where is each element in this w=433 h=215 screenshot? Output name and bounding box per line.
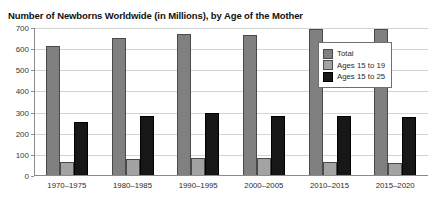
y-axis-tick-label: 200 (16, 129, 29, 138)
y-axis-tick-label: 500 (16, 66, 29, 75)
y-axis-tick-label: 400 (16, 87, 29, 96)
legend-swatch-icon (323, 72, 333, 82)
y-tick-mark (31, 176, 34, 177)
x-axis-tick-label: 1980–1985 (113, 181, 152, 190)
legend-swatch-icon (323, 49, 333, 59)
y-axis-tick-label: 100 (16, 150, 29, 159)
chart-container: Number of Newborns Worldwide (in Million… (0, 0, 433, 215)
y-axis-tick-label: 300 (16, 108, 29, 117)
legend-item[interactable]: Total (323, 49, 385, 59)
legend-swatch-icon (323, 60, 333, 70)
chart-legend: TotalAges 15 to 19Ages 15 to 25 (318, 42, 392, 88)
chart-title: Number of Newborns Worldwide (in Million… (8, 10, 303, 21)
legend-item-label: Total (337, 49, 353, 58)
legend-item[interactable]: Ages 15 to 25 (323, 72, 385, 82)
y-axis-tick-label: 0 (25, 172, 29, 181)
legend-item-label: Ages 15 to 25 (337, 72, 385, 81)
x-axis-tick-label: 2000–2005 (244, 181, 283, 190)
x-axis-tick-label: 2015–2020 (376, 181, 415, 190)
legend-item[interactable]: Ages 15 to 19 (323, 60, 385, 70)
legend-item-label: Ages 15 to 19 (337, 61, 385, 70)
y-axis-tick-label: 600 (16, 45, 29, 54)
x-axis-tick-label: 1990–1995 (179, 181, 218, 190)
y-axis-tick-label: 700 (16, 24, 29, 33)
x-axis-tick-label: 1970–1975 (47, 181, 86, 190)
x-axis-tick-label: 2010–2015 (310, 181, 349, 190)
